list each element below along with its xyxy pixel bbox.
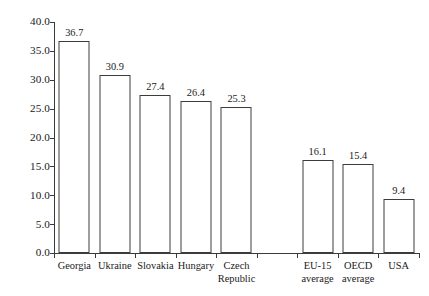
bar-value-label: 25.3 — [227, 94, 245, 104]
bar[interactable] — [99, 75, 130, 253]
bar-value-label: 36.7 — [65, 28, 83, 38]
bar-value-label: 9.4 — [392, 186, 405, 196]
x-axis-tick-mark — [135, 253, 136, 258]
x-axis-tick-mark — [54, 253, 55, 258]
bar-value-label: 27.4 — [146, 82, 164, 92]
bar[interactable] — [383, 199, 414, 253]
x-axis-tick-mark — [95, 253, 96, 258]
x-axis-tick-mark — [257, 253, 258, 258]
bar-value-label: 30.9 — [106, 62, 124, 72]
x-axis-tick-mark — [216, 253, 217, 258]
bar-slot[interactable]: 30.9 — [95, 22, 136, 253]
bar[interactable] — [302, 160, 333, 253]
bar[interactable] — [140, 95, 171, 253]
bar-value-label: 26.4 — [187, 88, 205, 98]
bar[interactable] — [221, 107, 252, 253]
x-axis-category-label: USA — [378, 260, 419, 273]
x-axis-tick-mark — [338, 253, 339, 258]
x-axis-category-label: Hungary — [176, 260, 217, 273]
x-axis-labels: GeorgiaUkraineSlovakiaHungaryCzech Repub… — [54, 260, 419, 296]
bar-slot[interactable]: 15.4 — [338, 22, 379, 253]
bar-slot[interactable]: 36.7 — [54, 22, 95, 253]
bar-slot[interactable]: 27.4 — [135, 22, 176, 253]
bar[interactable] — [343, 164, 374, 253]
x-axis-category-label: Slovakia — [135, 260, 176, 273]
bars-layer: 36.730.927.426.425.316.115.49.4 — [54, 22, 419, 253]
bar-chart: 0.05.010.015.020.025.030.035.040.0 36.73… — [0, 0, 429, 296]
bar-value-label: 15.4 — [349, 151, 367, 161]
bar-slot[interactable]: 16.1 — [297, 22, 338, 253]
x-axis-tick-mark — [378, 253, 379, 258]
bar-slot[interactable]: 25.3 — [216, 22, 257, 253]
bar-value-label: 16.1 — [309, 147, 327, 157]
x-axis-category-label: Czech Republic — [216, 260, 257, 285]
x-axis-category-label: Georgia — [54, 260, 95, 273]
x-axis-line — [54, 253, 419, 254]
x-axis-tick-mark — [297, 253, 298, 258]
x-axis-category-label: OECD average — [338, 260, 379, 285]
x-axis-tick-mark — [419, 253, 420, 258]
bar-slot[interactable]: 9.4 — [378, 22, 419, 253]
x-axis-category-label: EU-15 average — [297, 260, 338, 285]
bar-slot[interactable]: 26.4 — [176, 22, 217, 253]
bar[interactable] — [180, 101, 211, 253]
x-axis-tick-mark — [176, 253, 177, 258]
bar[interactable] — [59, 41, 90, 253]
x-axis-category-label: Ukraine — [95, 260, 136, 273]
